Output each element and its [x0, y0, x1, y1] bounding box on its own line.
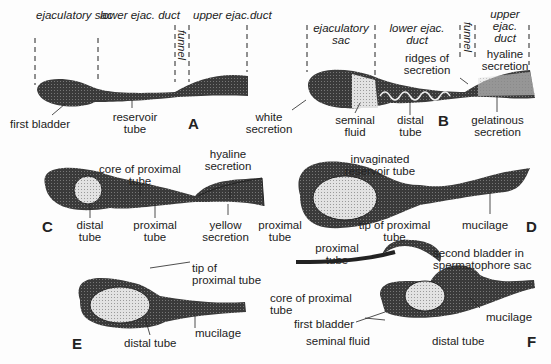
panel-c-yellow-label: yellow secretion: [198, 219, 253, 243]
panel-e-mucilage-label: mucilage: [195, 327, 241, 339]
panel-a-reservoir-tube-label: reservoir tube: [105, 111, 165, 135]
panel-f-distal-tube-label: distal tube: [432, 335, 484, 347]
panel-b-gelatinous-label: gelatinous secretion: [465, 114, 530, 138]
panel-d-tip-label: tip of proximal tube: [352, 219, 437, 243]
panel-e-letter: E: [72, 335, 82, 352]
panel-a-shape: [37, 75, 248, 107]
panel-d-letter: D: [526, 218, 537, 235]
panel-a-region-upper-ejac-duct: upper ejac.duct: [193, 9, 272, 21]
panel-e-distal-tube-label: distal tube: [124, 337, 176, 349]
panel-f-shape: [380, 265, 535, 318]
panel-f-seminal-fluid-label: seminal fluid: [306, 335, 370, 347]
panel-e-tip-label: tip of proximal tube: [192, 262, 262, 286]
panel-f-second-bladder-label: second bladder in spermatophore sac: [433, 247, 541, 271]
panel-f-proximal-tube-label: proximal tube: [312, 242, 362, 266]
panel-f-letter: F: [527, 333, 536, 350]
panel-c-proximal-tube-label: proximal tube: [130, 219, 180, 243]
panel-c-core-label: core of proximal tube: [92, 163, 188, 187]
panel-d-proximal-tube-label: proximal tube: [255, 219, 305, 243]
panel-b-ridges-label: ridges of secretion: [392, 52, 462, 76]
panel-a-letter: A: [188, 115, 199, 132]
panel-a-white-secretion-label: white secretion: [244, 111, 294, 135]
panel-c-letter: C: [42, 218, 53, 235]
panel-b-region-upper-ejac-duct: upper ejac. duct: [485, 8, 525, 44]
panel-f-core-label: core of proximal tube: [270, 292, 358, 316]
panel-b-distal-tube-label: distal tube: [388, 114, 433, 138]
panel-d-mucilage-label: mucilage: [462, 219, 508, 231]
panel-d-invaginated-label: invaginated reservoir tube: [340, 153, 420, 177]
panel-b-seminal-fluid-label: seminal fluid: [330, 114, 380, 138]
panel-c-hyaline-label: hyaline secretion: [198, 148, 258, 172]
panel-b-letter: B: [438, 112, 449, 129]
panel-a-region-lower-ejac-duct: lower ejac. duct: [100, 9, 180, 21]
panel-f-mucilage-label: mucilage: [486, 311, 532, 323]
panel-a-first-bladder-label: first bladder: [10, 118, 70, 130]
panel-b-hyaline-label: hyaline secretion: [475, 48, 535, 72]
panel-a-region-funnel: funnel: [176, 30, 188, 60]
spermatophore-diagram: ejaculatory sac lower ejac. duct funnel …: [0, 0, 551, 364]
panel-b-region-ejaculatory-sac: ejaculatory sac: [308, 22, 374, 46]
panel-c-distal-tube-label: distal tube: [70, 219, 110, 243]
panel-b-region-funnel: funnel: [462, 22, 474, 52]
panel-f-first-bladder-label: first bladder: [294, 318, 354, 330]
panel-b-region-lower-ejac-duct: lower ejac. duct: [382, 22, 452, 46]
